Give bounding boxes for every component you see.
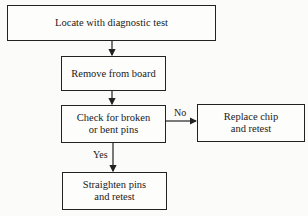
node-remove-label: Remove from board — [71, 68, 156, 80]
edge-label-no: No — [174, 107, 186, 118]
node-check-label-line1: Check for broken — [77, 112, 150, 124]
node-straighten-label-line1: Straighten pins — [83, 179, 146, 191]
node-locate-label: Locate with diagnostic test — [55, 17, 168, 29]
node-straighten: Straighten pins and retest — [62, 172, 167, 210]
node-straighten-label-line2: and retest — [94, 191, 135, 203]
node-check-label-line2: or bent pins — [89, 124, 139, 136]
edge-label-yes: Yes — [93, 149, 108, 160]
node-remove: Remove from board — [61, 56, 166, 91]
node-locate: Locate with diagnostic test — [7, 5, 216, 41]
node-check: Check for broken or bent pins — [61, 105, 166, 143]
node-replace-label-line2: and retest — [231, 123, 272, 135]
node-replace: Replace chip and retest — [197, 104, 305, 142]
node-replace-label-line1: Replace chip — [224, 111, 279, 123]
